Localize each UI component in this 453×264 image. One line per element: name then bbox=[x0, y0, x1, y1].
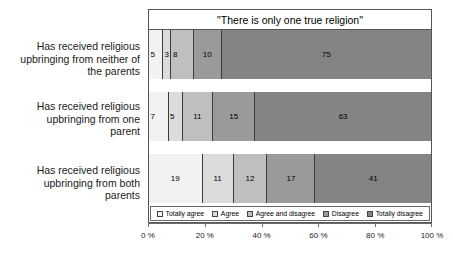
category-label-line: Has received religious bbox=[37, 164, 140, 176]
bar-segment: 15 bbox=[213, 92, 255, 141]
bar-segment: 3 bbox=[163, 30, 171, 79]
bar-segment-value: 41 bbox=[369, 174, 378, 183]
bar-segment: 12 bbox=[234, 154, 268, 203]
legend-item-label: Disagree bbox=[332, 210, 359, 217]
category-label-neither: Has received religious upbringing from n… bbox=[0, 40, 140, 78]
x-axis-tick-label: 80 % bbox=[366, 231, 384, 240]
bar-segment: 75 bbox=[222, 30, 431, 79]
x-axis-tick bbox=[262, 223, 263, 227]
bar-segment: 8 bbox=[171, 30, 193, 79]
bar-segment-value: 5 bbox=[170, 112, 174, 121]
plot-area: "There is only one true religion" 538107… bbox=[148, 9, 432, 223]
category-label-line: parents bbox=[105, 189, 140, 201]
legend-swatch-icon bbox=[323, 211, 329, 217]
legend-item-label: Agree and disagree bbox=[256, 210, 315, 217]
legend-item[interactable]: Agree bbox=[212, 210, 239, 217]
category-axis-labels: Has received religious upbringing from n… bbox=[0, 0, 144, 264]
bar-segment: 63 bbox=[255, 92, 431, 141]
category-label-line: upbringing from both bbox=[44, 177, 140, 189]
bar-segment: 19 bbox=[149, 154, 203, 203]
legend-swatch-icon bbox=[247, 211, 253, 217]
x-axis-tick bbox=[318, 223, 319, 227]
table-row: 1911121741 bbox=[149, 154, 431, 203]
bars-container: 5381075 75111563 1911121741 bbox=[149, 30, 431, 206]
table-row: 5381075 bbox=[149, 30, 431, 79]
bar-segment-value: 5 bbox=[151, 50, 155, 59]
bar-segment-value: 11 bbox=[193, 112, 201, 121]
category-label-one-parent: Has received religious upbringing from o… bbox=[0, 100, 140, 138]
category-label-line: the parents bbox=[87, 65, 140, 77]
bar-segment-value: 75 bbox=[322, 50, 331, 59]
legend-swatch-icon bbox=[157, 211, 163, 217]
bar-segment-value: 12 bbox=[246, 174, 255, 183]
legend-item[interactable]: Agree and disagree bbox=[247, 210, 315, 217]
bar-segment-value: 15 bbox=[229, 112, 238, 121]
bar-segment-value: 19 bbox=[171, 174, 180, 183]
bar-segment: 7 bbox=[149, 92, 169, 141]
bar-segment-value: 11 bbox=[213, 174, 221, 183]
bar-segment-value: 8 bbox=[173, 50, 177, 59]
bar-segment-value: 3 bbox=[164, 50, 168, 59]
bar-segment-value: 17 bbox=[286, 174, 295, 183]
bar-segment-value: 7 bbox=[151, 112, 155, 121]
legend-swatch-icon bbox=[212, 211, 218, 217]
bar-segment-value: 63 bbox=[339, 112, 348, 121]
x-axis-tick-label: 100 % bbox=[421, 231, 444, 240]
chart-legend: Totally agreeAgreeAgree and disagreeDisa… bbox=[150, 206, 430, 221]
category-label-line: parent bbox=[110, 125, 140, 137]
legend-item[interactable]: Totally disagree bbox=[367, 210, 423, 217]
x-axis-line bbox=[148, 223, 432, 224]
stacked-bar-chart: Has received religious upbringing from n… bbox=[0, 0, 453, 264]
x-axis-tick bbox=[375, 223, 376, 227]
legend-item-label: Agree bbox=[221, 210, 239, 217]
bar-segment: 17 bbox=[267, 154, 315, 203]
category-label-both-parents: Has received religious upbringing from b… bbox=[0, 164, 140, 202]
legend-item[interactable]: Disagree bbox=[323, 210, 359, 217]
bar-segment: 41 bbox=[315, 154, 431, 203]
bar-segment: 10 bbox=[194, 30, 222, 79]
bar-segment-value: 10 bbox=[203, 50, 212, 59]
legend-item-label: Totally agree bbox=[166, 210, 205, 217]
chart-title: "There is only one true religion" bbox=[149, 10, 431, 30]
legend-item[interactable]: Totally agree bbox=[157, 210, 204, 217]
x-axis-tick bbox=[431, 223, 432, 227]
x-axis-tick bbox=[148, 223, 149, 227]
bar-segment: 11 bbox=[183, 92, 214, 141]
bar-segment: 5 bbox=[169, 92, 183, 141]
table-row: 75111563 bbox=[149, 92, 431, 141]
x-axis-tick-label: 0 % bbox=[141, 231, 155, 240]
category-label-line: upbringing from one bbox=[47, 113, 140, 125]
x-axis-tick-label: 60 % bbox=[309, 231, 327, 240]
legend-item-label: Totally disagree bbox=[376, 210, 423, 217]
legend-swatch-icon bbox=[367, 211, 373, 217]
category-label-line: Has received religious bbox=[37, 100, 140, 112]
bar-segment: 5 bbox=[149, 30, 163, 79]
x-axis-tick bbox=[205, 223, 206, 227]
category-label-line: upbringing from neither of bbox=[20, 53, 140, 65]
category-label-line: Has received religious bbox=[37, 40, 140, 52]
x-axis-tick-label: 40 % bbox=[252, 231, 270, 240]
bar-segment: 11 bbox=[203, 154, 234, 203]
x-axis-tick-label: 20 % bbox=[196, 231, 214, 240]
